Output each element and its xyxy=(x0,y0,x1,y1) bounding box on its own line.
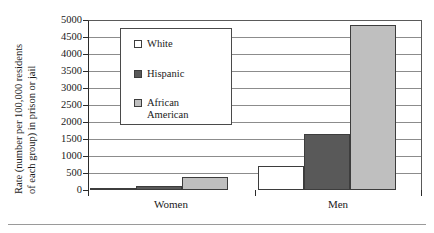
x-axis-label-men: Men xyxy=(298,198,378,210)
bar-women-hispanic[interactable] xyxy=(136,186,182,190)
legend-label-african-american: African American xyxy=(147,97,188,121)
y-tick-label-5000: 5000 xyxy=(36,14,82,25)
y-tick-label-2500: 2500 xyxy=(36,99,82,110)
y-tick-label-4000: 4000 xyxy=(36,48,82,59)
x-tick-middle xyxy=(255,190,256,196)
y-tick-label-4500: 4500 xyxy=(36,31,82,42)
x-tick-left xyxy=(88,190,89,196)
legend: White Hispanic African American xyxy=(120,28,232,125)
legend-swatch-white-icon xyxy=(134,40,142,48)
bar-men-african-american[interactable] xyxy=(350,25,396,190)
y-tick-label-3000: 3000 xyxy=(36,82,82,93)
y-axis-tick-labels: 5000 4500 4000 3500 3000 2500 2000 1500 … xyxy=(36,0,82,233)
x-axis-label-women: Women xyxy=(131,198,211,210)
footer-divider xyxy=(8,224,426,225)
legend-swatch-african-american-icon xyxy=(134,99,142,107)
legend-swatch-hispanic-icon xyxy=(134,70,142,78)
legend-item-african-american[interactable]: African American xyxy=(134,97,188,121)
bar-men-hispanic[interactable] xyxy=(304,134,350,190)
y-tick-label-1000: 1000 xyxy=(36,150,82,161)
legend-label-white: White xyxy=(147,38,173,50)
x-tick-right xyxy=(421,190,422,196)
y-tick-label-1500: 1500 xyxy=(36,133,82,144)
bar-men-white[interactable] xyxy=(258,166,304,190)
bar-women-white[interactable] xyxy=(90,188,136,190)
legend-label-hispanic: Hispanic xyxy=(147,68,184,80)
y-tick-label-2000: 2000 xyxy=(36,116,82,127)
y-tick-label-500: 500 xyxy=(36,167,82,178)
legend-item-white[interactable]: White xyxy=(134,38,173,50)
bar-chart-figure: Rate (number per 100,000 residents of ea… xyxy=(0,0,434,233)
y-axis-title-line-1: Rate (number per 100,000 residents xyxy=(12,44,25,194)
bar-women-african-american[interactable] xyxy=(182,177,228,190)
legend-item-hispanic[interactable]: Hispanic xyxy=(134,68,184,80)
y-tick-label-3500: 3500 xyxy=(36,65,82,76)
y-tick-label-0: 0 xyxy=(36,184,82,195)
